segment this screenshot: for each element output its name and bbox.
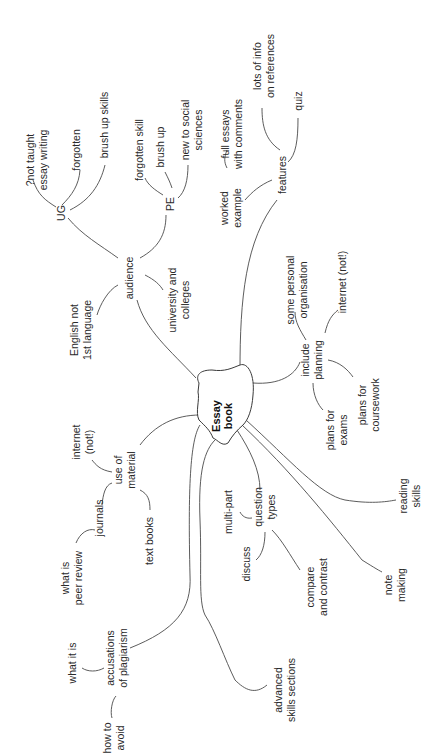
edge-plag-howtoavoid [111,696,116,718]
node-material-internet-l2[interactable]: (not!) [83,430,95,455]
mind-map: Essay book audience UG ?not taught essay… [0,0,448,755]
node-use-of-material-l2[interactable]: material [125,451,137,488]
node-peer-review-l2[interactable]: peer review [72,550,84,605]
node-note-making-l1[interactable]: note [382,575,394,596]
edge-plag-whatitis [82,668,104,671]
node-ug-brush-up-skills[interactable]: brush up skills [98,92,110,159]
edge-features-worked [245,180,272,200]
node-use-of-material-l1[interactable]: use of [112,456,124,485]
edge-audience-university [145,275,163,290]
edge-pe-forgotten [145,178,163,195]
node-ug-not-taught-l2[interactable]: essay writing [37,130,49,191]
edge-qt-discuss [256,532,265,560]
edge-center-plagiarism [130,425,200,648]
node-ug-forgotten[interactable]: forgotten [70,129,82,171]
edge-ug-forgotten [62,170,80,205]
node-text-books[interactable]: text books [143,517,155,565]
edge-features-lotsinfo [262,108,280,150]
node-pe[interactable]: PE [164,197,176,211]
node-pe-new-to-social-l1[interactable]: new to social [179,100,191,161]
node-university-l1[interactable]: university and [166,267,178,332]
edge-qt-compare [272,530,300,570]
central-title-line2: book [222,402,234,429]
node-pe-forgotten-skill[interactable]: forgotten skill [133,119,145,181]
node-peer-review-l1[interactable]: what is [59,562,71,596]
node-plans-exams-l1[interactable]: plans for [324,409,336,450]
edge-pe-brushup [165,172,172,188]
node-include-planning-l2[interactable]: planning [312,340,324,380]
node-plagiarism-l2[interactable]: of plagiarism [117,628,129,688]
central-node[interactable]: Essay book [197,365,253,445]
central-title-line1: Essay [210,399,222,432]
node-note-making-l2[interactable]: making [395,568,407,602]
edge-audience-ug [68,218,118,258]
node-compare-l2[interactable]: and contrast [317,558,329,616]
node-ug[interactable]: UG [55,205,67,221]
node-university-l2[interactable]: colleges [179,281,191,320]
branch-reading-skills[interactable]: reading skills [397,478,422,513]
edge-pe-newtosocial [178,165,188,198]
node-reading-skills-l1[interactable]: reading [397,478,409,513]
branch-question-types[interactable]: question types multi-part discuss compar… [222,487,329,616]
node-english-l1[interactable]: English not [68,304,80,356]
node-advanced-l2[interactable]: skills sections [285,658,297,722]
node-what-it-is[interactable]: what it is [66,643,78,685]
node-planning-internet[interactable]: internet (not!) [336,251,348,313]
node-personal-org-l1[interactable]: some personal [284,256,296,325]
node-multi-part[interactable]: multi-part [222,490,234,534]
node-plans-coursework-l1[interactable]: plans for [356,384,368,425]
node-full-essays-l2[interactable]: with comments [232,99,244,170]
node-reading-skills-l2[interactable]: skills [410,485,422,508]
node-personal-org-l2[interactable]: organisation [297,261,309,318]
node-advanced-l1[interactable]: advanced [272,667,284,713]
edge-features-quiz [288,118,298,162]
node-compare-l1[interactable]: compare [304,566,316,607]
node-material-internet-l1[interactable]: internet [70,424,82,459]
branch-use-of-material[interactable]: use of material internet (not!) journals… [59,424,155,605]
node-quiz[interactable]: quiz [292,91,304,110]
node-pe-brush-up[interactable]: brush up [154,126,166,167]
edge-audience-pe [140,215,166,258]
branch-plagiarism[interactable]: accusations of plagiarism what it is how… [66,628,129,753]
edge-planning-exams [313,383,323,410]
branch-advanced[interactable]: advanced skills sections [272,658,297,722]
node-worked-example-l1[interactable]: worked [218,191,230,226]
edge-center-material [140,415,200,445]
edge-center-features [240,200,277,370]
node-plans-coursework-l2[interactable]: coursework [369,377,381,431]
node-include-planning-l1[interactable]: include [299,343,311,376]
edge-audience-english [97,285,118,315]
node-lots-of-info-l1[interactable]: lots of info [251,42,263,90]
node-audience[interactable]: audience [123,257,135,300]
node-english-l2[interactable]: 1st language [81,300,93,360]
mind-map-canvas: Essay book audience UG ?not taught essay… [0,0,448,755]
edge-material-internet [92,460,112,472]
branch-note-making[interactable]: note making [382,568,407,602]
branch-audience[interactable]: audience UG ?not taught essay writing fo… [24,92,204,360]
edge-planning-coursework [328,360,353,377]
node-features[interactable]: features [276,156,288,194]
node-lots-of-info-l2[interactable]: on references [264,34,276,98]
node-question-types-l1[interactable]: question [252,487,264,527]
node-ug-not-taught-l1[interactable]: ?not taught [24,134,36,187]
node-plagiarism-l1[interactable]: accusations [104,630,116,685]
node-worked-example-l2[interactable]: example [231,188,243,228]
edge-qt-multipart [240,512,252,518]
edge-center-planning [253,362,300,383]
node-question-types-l2[interactable]: types [265,494,277,519]
branch-include-planning[interactable]: include planning some personal organisat… [284,251,381,450]
branch-features[interactable]: features worked example full essays with… [218,34,304,228]
node-journals[interactable]: journals [93,500,105,538]
node-discuss[interactable]: discuss [240,546,252,581]
node-how-to-avoid-l2[interactable]: avoid [114,725,126,750]
node-plans-exams-l2[interactable]: exams [337,415,349,446]
node-pe-new-to-social-l2[interactable]: sciences [192,110,204,151]
node-how-to-avoid-l1[interactable]: how to [101,722,113,753]
edge-material-textbooks [140,490,150,510]
edge-center-advanced [200,440,267,690]
node-full-essays-l1[interactable]: full essays [219,109,231,158]
